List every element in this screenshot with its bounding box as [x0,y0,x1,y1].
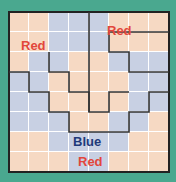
grid-cell[interactable] [89,92,108,111]
grid-cell[interactable] [9,132,28,151]
grid-cell[interactable] [149,52,168,71]
grid-cell[interactable] [149,112,168,131]
label-red-2: Red [107,24,132,37]
grid-cell[interactable] [49,72,68,91]
grid-cell[interactable] [69,72,88,91]
grid-cell[interactable] [129,52,148,71]
grid-cell[interactable] [49,112,68,131]
grid-cell[interactable] [29,12,48,31]
grid-cell[interactable] [49,12,68,31]
grid-cell[interactable] [89,52,108,71]
grid-cell[interactable] [9,12,28,31]
puzzle-board: Red Red Blue Red [9,12,169,172]
grid-cell[interactable] [89,72,108,91]
grid-cell[interactable] [149,92,168,111]
grid-cell[interactable] [49,52,68,71]
grid-cell[interactable] [109,52,128,71]
grid-cell[interactable] [89,112,108,131]
grid-cell[interactable] [49,152,68,171]
grid-cell[interactable] [109,72,128,91]
grid-cell[interactable] [149,72,168,91]
grid-cell[interactable] [29,132,48,151]
grid-cell[interactable] [49,92,68,111]
grid-cell[interactable] [9,92,28,111]
grid-cell[interactable] [69,12,88,31]
grid-cell[interactable] [29,72,48,91]
grid-cell[interactable] [29,92,48,111]
label-red-3: Red [78,155,103,168]
grid-cell[interactable] [129,92,148,111]
grid-cell[interactable] [69,52,88,71]
grid-cell[interactable] [9,112,28,131]
grid-cell[interactable] [49,132,68,151]
grid-cell[interactable] [109,92,128,111]
grid-cell[interactable] [29,112,48,131]
grid-cell[interactable] [9,52,28,71]
grid-cell[interactable] [69,92,88,111]
grid-cell[interactable] [29,152,48,171]
grid-cell[interactable] [149,12,168,31]
grid-cell[interactable] [9,72,28,91]
grid-cell[interactable] [9,152,28,171]
label-red-1: Red [21,39,46,52]
grid-cell[interactable] [129,132,148,151]
grid-cell[interactable] [29,52,48,71]
grid-cell[interactable] [49,32,68,51]
grid-cell[interactable] [109,132,128,151]
grid-cell[interactable] [129,72,148,91]
grid-cell[interactable] [89,32,108,51]
label-blue: Blue [73,135,101,148]
grid-cell[interactable] [109,152,128,171]
grid-cell[interactable] [149,132,168,151]
grid-cell[interactable] [149,152,168,171]
grid-cell[interactable] [129,152,148,171]
grid-cell[interactable] [149,32,168,51]
grid-cell[interactable] [129,112,148,131]
grid-cell[interactable] [69,112,88,131]
grid-cell[interactable] [89,12,108,31]
grid-cell[interactable] [109,112,128,131]
grid-cell[interactable] [69,32,88,51]
